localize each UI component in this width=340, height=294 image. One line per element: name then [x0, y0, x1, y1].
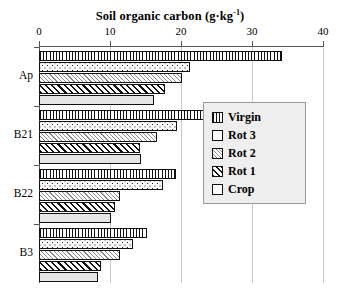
bar [39, 191, 120, 201]
y-tick-mark [34, 224, 40, 225]
gridline [323, 47, 324, 283]
bar [39, 213, 111, 223]
bar [39, 95, 154, 105]
bar [39, 261, 101, 271]
legend-item[interactable]: Crop [212, 180, 301, 198]
y-axis-group-label: B22 [0, 187, 33, 199]
legend-item-label: Crop [228, 182, 254, 197]
legend: VirginRot 3Rot 2Rot 1Crop [203, 102, 306, 204]
legend-swatch-icon [212, 184, 223, 195]
legend-swatch-icon [212, 148, 223, 159]
chart-title-tail: ) [240, 9, 244, 23]
legend-item-label: Rot 2 [228, 146, 256, 161]
bar [39, 250, 120, 260]
soil-organic-carbon-chart: Soil organic carbon (g·kg-1) 010203040 A… [0, 0, 340, 294]
legend-swatch-icon [212, 166, 223, 177]
legend-item[interactable]: Rot 1 [212, 162, 301, 180]
x-tick-label: 10 [105, 25, 116, 37]
x-tick-label: 0 [36, 25, 42, 37]
legend-swatch-icon [212, 130, 223, 141]
y-axis-group-label: Ap [0, 69, 33, 81]
legend-item-label: Rot 3 [228, 128, 256, 143]
legend-item[interactable]: Virgin [212, 108, 301, 126]
legend-item-label: Virgin [228, 110, 261, 125]
bar [39, 169, 176, 179]
bar [39, 73, 182, 83]
bar [39, 272, 98, 282]
x-tick-label: 30 [247, 25, 258, 37]
bar [39, 154, 141, 164]
y-tick-mark [34, 165, 40, 166]
chart-title-main: Soil organic carbon (g·kg [96, 9, 234, 23]
y-axis-group-label: B3 [0, 246, 33, 258]
y-tick-mark [34, 47, 40, 48]
bar [39, 143, 140, 153]
chart-title: Soil organic carbon (g·kg-1) [0, 8, 340, 24]
bar [39, 84, 165, 94]
bar [39, 121, 177, 131]
legend-item-label: Rot 1 [228, 164, 256, 179]
bar [39, 132, 157, 142]
y-tick-mark [34, 106, 40, 107]
bar [39, 228, 147, 238]
legend-swatch-icon [212, 112, 223, 123]
x-tick-label: 20 [176, 25, 187, 37]
legend-item[interactable]: Rot 2 [212, 144, 301, 162]
bar [39, 110, 218, 120]
y-axis-group-label: B21 [0, 128, 33, 140]
legend-item[interactable]: Rot 3 [212, 126, 301, 144]
bar [39, 51, 282, 61]
bar [39, 62, 190, 72]
bar [39, 180, 163, 190]
bar [39, 239, 133, 249]
bar [39, 202, 115, 212]
x-tick-label: 40 [318, 25, 329, 37]
